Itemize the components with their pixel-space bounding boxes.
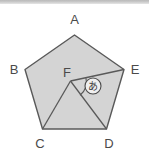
point-label-f: F xyxy=(63,65,71,80)
angle-marker-glyph: あ xyxy=(88,81,98,92)
vertex-label-e: E xyxy=(131,62,140,77)
pentagon-diagram: あ A B C D E F xyxy=(0,0,149,153)
vertex-label-c: C xyxy=(35,136,44,151)
geometry-figure: あ A B C D E F xyxy=(0,0,149,153)
pentagon-shape xyxy=(25,35,124,129)
vertex-label-b: B xyxy=(10,62,19,77)
vertex-label-d: D xyxy=(104,136,113,151)
vertex-label-a: A xyxy=(70,12,79,27)
